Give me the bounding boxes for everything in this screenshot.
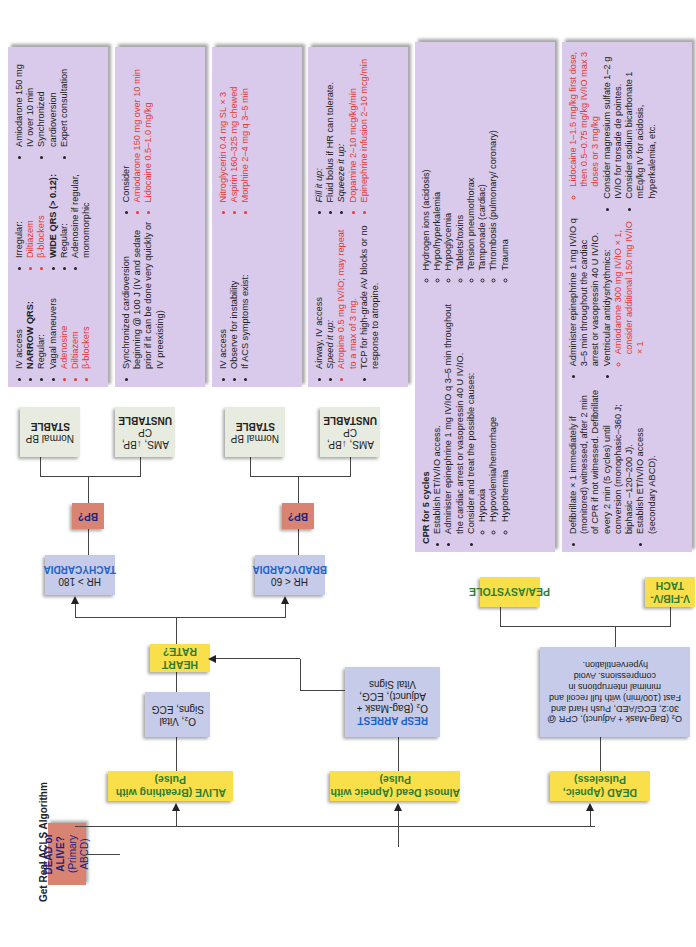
unstable-line2: UNSTABLE (118, 414, 172, 426)
cause: Tamponade (cardiac) (477, 50, 488, 271)
item: Consider magnesium sulfate 1–2 g IV/IO f… (602, 50, 624, 199)
stable-line1: Normal BP (231, 432, 279, 444)
stable-line2: STABLE (235, 420, 274, 432)
branch-trunk (75, 826, 595, 827)
arrow-icon (281, 596, 289, 604)
item: NARROW QRS: (25, 277, 36, 369)
item: Synchronized cardioversion beginning @ 1… (121, 222, 166, 370)
stable-line2: STABLE (30, 420, 69, 432)
item: IV access (218, 222, 229, 370)
tachy-stable-node: Normal BPSTABLE (20, 407, 80, 457)
vfib-box: Defibrillate × 1 immediately if (monitor… (562, 42, 692, 552)
item: Consider and treat the possible causes: (466, 302, 477, 535)
item: Defibrillate × 1 immediately if (monitor… (568, 385, 635, 534)
tachy-unstable-box: Synchronized cardioversion beginning @ 1… (115, 47, 205, 387)
item: Regular: (36, 277, 47, 369)
cause: Hypoglycemia (443, 50, 454, 271)
bradycardia-node: HR < 60 BRADYCARDIA (255, 555, 325, 595)
unstable-line1: AMS, ↓BP, CP (320, 426, 380, 450)
item: Establish ET/IV/IO access. (432, 302, 443, 535)
resp-arrest-title: RESP ARREST (357, 714, 428, 726)
arrow-icon (586, 803, 594, 811)
pea-box: CPR for 5 cycles Establish ET/IV/IO acce… (415, 42, 555, 552)
item: Ventricular antidysrhythmics: (602, 218, 613, 367)
item: Adenosine if regular, monomorphic (70, 166, 92, 258)
brady-unstable-box: Airway, IV access Speed it up: Atropine … (308, 47, 408, 387)
item: Fill it up: (314, 55, 325, 203)
drug: Adenosine (59, 277, 70, 369)
brady-unstable-node: AMS, ↓BP, CPUNSTABLE (320, 407, 380, 457)
drug: β-blockers (36, 166, 47, 258)
drug: Amiodarone 150 mg over 10 min (132, 55, 143, 203)
acls-flowchart: Get Real ACLS Algorithm DEAD or ALIVE? (… (0, 0, 696, 947)
brady-stable-node: Normal BPSTABLE (225, 407, 285, 457)
cause: Hypovolemia/hemorrhage (488, 302, 499, 523)
item: Consider (121, 55, 132, 203)
brady-line1: HR < 60 (272, 575, 309, 587)
resp-arrest-body: O₂ (Bag-Mask + Adjunct), ECG, Vital Sign… (349, 678, 436, 714)
drug: Lidocaine 1–1.5 mg/kg first dose, then 0… (568, 50, 602, 187)
cause: Hypo/hyperkalemia (432, 50, 443, 271)
drug: Amiodarone 300 mg IV/IO × 1, consider ad… (613, 218, 647, 355)
arrow-icon (394, 803, 402, 811)
stable-line1: Normal BP (26, 432, 74, 444)
pea-asystole-node: PEA/ASYSTOLE (480, 577, 540, 607)
drug: Diltiazem (25, 166, 36, 258)
drug: Epinephrine infusion 2–10 mcg/min (359, 55, 370, 203)
item: Consider sodium bicarbonate 1 mEq/kg IV … (624, 50, 658, 199)
item: WIDE QRS (> 0.12): (48, 166, 59, 258)
dead-action-box: O₂ (Bag-Mask + Adjunct), CPR @ 30:2, ECG… (540, 647, 690, 737)
alive-action-box: O₂, Vital Signs, ECG (145, 692, 210, 737)
heart-rate-node: HEART RATE? (150, 644, 210, 672)
item: Vagal maneuvers (48, 277, 59, 369)
drug: Dopamine 2–10 mcg/kg/min (348, 55, 359, 203)
tachy-bp-node: BP? (72, 503, 104, 529)
connector (86, 854, 120, 855)
item: Irregular: (14, 166, 25, 258)
tachy-stable-box: IV access NARROW QRS: Regular: Vagal man… (8, 47, 108, 387)
item: Expert consultation (59, 55, 70, 147)
item: Observe for instability (229, 222, 240, 370)
item: Administer epinephrine 1 mg IV/IO q 3–5 … (443, 302, 465, 535)
item: Establish ET/IV/IO access (secondary ABC… (635, 385, 657, 534)
brady-stable-box: IV access Observe for instability If ACS… (212, 47, 302, 387)
arrow-icon (172, 803, 180, 811)
arrow-icon (71, 596, 79, 604)
drug: Diltiazem (70, 277, 81, 369)
tachy-line2: TACHYCARDIA (44, 563, 117, 575)
drug: Atropine 0.5 mg IV/IO; may repeat to a m… (336, 222, 358, 370)
pea-heading: CPR for 5 cycles (421, 302, 432, 545)
brady-bp-node: BP? (282, 503, 314, 529)
cause: Hypothermia (500, 302, 511, 523)
branch-alive: ALIVE (Breathing with Pulse) (108, 771, 233, 801)
cause: Hydrogen ions (acidosis) (421, 50, 432, 271)
item: Fluid bolus if HR can tolerate. (325, 55, 336, 203)
drug: Lidocaine 0.5–1.0 mg/kg (143, 55, 154, 203)
item: If ACS symptoms exist: (240, 222, 251, 370)
item: Regular: (59, 166, 70, 258)
cause: Tablets/toxins (455, 50, 466, 271)
drug: Aspirin 160–325 mg chewed (229, 55, 240, 203)
vfib-vtach-node: V-FIB/V-TACH (645, 577, 695, 607)
item: Synchronized cardioversion (36, 55, 58, 147)
arrow-icon (208, 655, 216, 663)
item: Amiodarone 150 mg IV over 10 min (14, 55, 36, 147)
root-line1: DEAD or ALIVE? (43, 823, 67, 885)
tachy-unstable-node: AMS, ↓BP, CPUNSTABLE (115, 407, 175, 457)
item: TCP for high-grade AV blocks or no respo… (359, 222, 381, 370)
drug: Morphine 2–4 mg q 3–5 min (240, 55, 251, 203)
cause: Thrombosis (pulmonary/ coronary) (488, 50, 499, 271)
cause: Hypoxia (477, 302, 488, 523)
unstable-line1: AMS, ↓BP, CP (115, 426, 175, 450)
brady-line2: BRADYCARDIA (253, 563, 327, 575)
item: IV access (14, 277, 25, 369)
tachy-line1: HR > 180 (59, 575, 102, 587)
item: Administer epinephrine 1 mg IV/IO q 3–5 … (568, 218, 602, 367)
cause: Tension pneumothorax (466, 50, 477, 271)
resp-arrest-box: RESP ARREST O₂ (Bag-Mask + Adjunct), ECG… (345, 667, 440, 737)
item: Airway, IV access (314, 222, 325, 370)
drug: β-blockers (81, 277, 92, 369)
branch-almost-dead: Almost Dead (Apneic with Pulse) (330, 771, 460, 801)
drug: Nitroglycerin 0.4 mg SL × 3 (218, 55, 229, 203)
tachycardia-node: HR > 180 TACHYCARDIA (45, 555, 115, 595)
